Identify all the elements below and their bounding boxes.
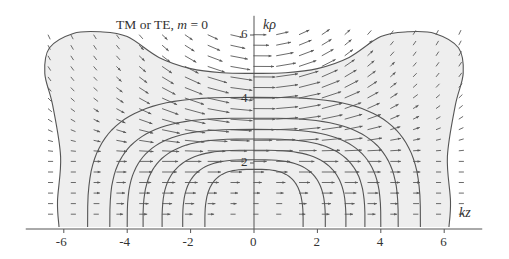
field-arrow: [459, 116, 463, 119]
field-arrow: [48, 35, 50, 40]
field-arrow: [139, 35, 143, 39]
x-tick-label: -6: [56, 234, 67, 250]
plot-title: TM or TE, m = 0: [116, 17, 208, 33]
field-arrow: [48, 151, 53, 152]
y-axis-label: kρ: [263, 17, 276, 33]
field-arrow: [48, 140, 53, 141]
y-tick-label: 6: [241, 26, 248, 42]
x-axis-label: kz: [459, 205, 471, 221]
y-tick-label: 2: [241, 154, 248, 170]
x-tick-label: 4: [377, 234, 384, 250]
field-arrow: [459, 139, 464, 140]
x-tick-label: 6: [440, 234, 447, 250]
field-arrow: [459, 41, 461, 46]
y-tick-label: 4: [241, 90, 248, 106]
x-tick-label: -4: [119, 234, 130, 250]
field-arrow: [48, 109, 52, 112]
x-tick-label: -2: [183, 234, 194, 250]
x-tick-label: 2: [313, 234, 320, 250]
field-plot: [0, 0, 509, 259]
field-arrow: [459, 95, 463, 99]
x-tick-label: 0: [250, 234, 257, 250]
field-arrow: [276, 63, 296, 66]
field-arrow: [48, 130, 53, 132]
field-arrow: [368, 30, 372, 34]
field-arrow: [459, 105, 463, 108]
field-arrow: [459, 150, 464, 151]
field-arrow: [459, 30, 461, 35]
field-arrow: [459, 128, 464, 130]
field-arrow: [48, 119, 52, 122]
field-arrow: [71, 151, 76, 152]
field-arrow: [231, 66, 251, 69]
